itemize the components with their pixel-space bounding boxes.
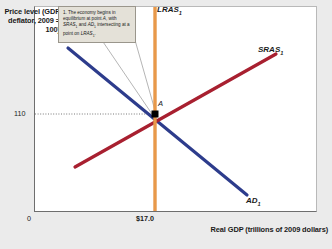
equilibrium-point-label: A [158,99,163,108]
annotation-callout-box: 1. The economy begins in equilibrium at … [58,6,136,43]
chart-svg [0,0,332,249]
ad1-label-subscript: 1 [258,201,261,207]
equilibrium-point-marker [152,111,159,118]
sras1-label-text: SRAS [258,45,280,54]
callout-leader-line-left [97,33,152,114]
callout-curve-sras: SRAS [63,22,76,27]
x-axis-tick-label: $17.0 [136,214,154,223]
callout-number: 1. [63,10,67,15]
callout-curve-lras: LRAS [81,31,93,36]
figure-container: Price level (GDP deflator, 2009 = 100) R… [0,0,332,249]
y-axis-title: Price level (GDP deflator, 2009 = 100) [0,7,60,35]
callout-leader-line-right [133,33,156,114]
x-axis-origin-label: 0 [27,214,31,223]
lras1-label-text: LRAS [157,5,179,14]
x-axis-title: Real GDP (trillions of 2009 dollars) [180,225,328,234]
callout-text-2: , with [106,16,117,21]
ad1-label-text: AD [246,196,258,205]
ad1-curve-label: AD1 [246,196,261,207]
sras1-label-subscript: 1 [280,50,283,56]
lras1-curve-label: LRAS1 [157,5,182,16]
callout-text-3: and [77,22,87,27]
lras1-label-subscript: 1 [179,10,182,16]
callout-text-5: . [95,31,96,36]
sras1-curve-label: SRAS1 [258,45,283,56]
sras1-curve [75,54,276,167]
y-axis-tick-label: 110 [14,109,25,118]
